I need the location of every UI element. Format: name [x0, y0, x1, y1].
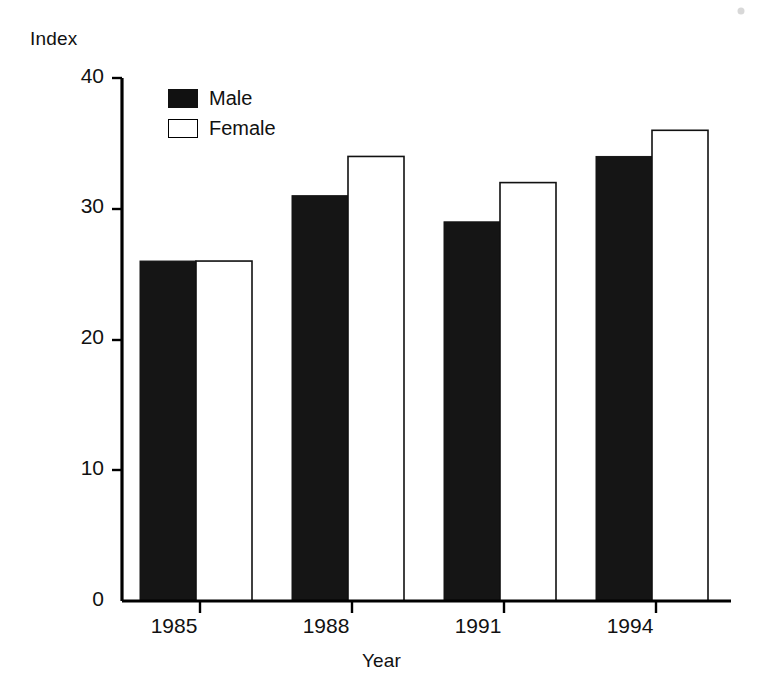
x-tick-label-1985: 1985: [114, 614, 234, 638]
scan-artifact-speck: [738, 8, 745, 15]
bar-male-1985: [140, 261, 196, 601]
x-tick-label-1991: 1991: [418, 614, 538, 638]
bar-female-1988: [348, 156, 404, 601]
x-axis-title: Year: [0, 650, 763, 672]
x-tick-label-1988: 1988: [266, 614, 386, 638]
x-tick-label-1994: 1994: [570, 614, 690, 638]
bar-male-1994: [596, 156, 652, 601]
bars-layer: [140, 130, 708, 601]
plot-area: [0, 0, 763, 693]
bar-female-1994: [652, 130, 708, 601]
bar-male-1991: [444, 222, 500, 601]
bar-female-1991: [500, 183, 556, 601]
bar-female-1985: [196, 261, 252, 601]
bar-chart-figure: Index 40 30 20 10 0 Male Female 1985 198…: [0, 0, 763, 693]
bar-male-1988: [292, 196, 348, 601]
